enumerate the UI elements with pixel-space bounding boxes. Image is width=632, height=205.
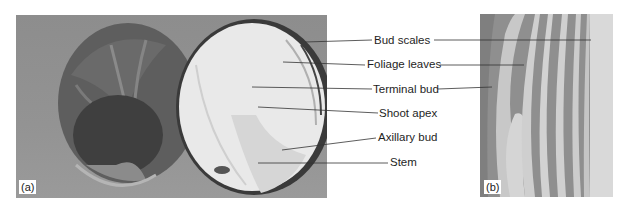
leader-bud-scales-left (305, 40, 372, 42)
label-terminal-bud: Terminal bud (373, 83, 439, 96)
label-stem: Stem (390, 156, 417, 169)
leader-lines (0, 0, 632, 205)
leader-shoot-apex (258, 107, 378, 113)
label-bud-scales: Bud scales (374, 34, 430, 47)
leader-terminal-bud-right (438, 87, 492, 89)
leader-terminal-bud-left (252, 87, 372, 89)
leader-foliage-leaves-left (283, 62, 365, 65)
label-axillary-bud: Axillary bud (378, 131, 437, 144)
leader-axillary-bud (282, 138, 376, 150)
label-shoot-apex: Shoot apex (379, 107, 437, 120)
label-foliage-leaves: Foliage leaves (367, 58, 441, 71)
